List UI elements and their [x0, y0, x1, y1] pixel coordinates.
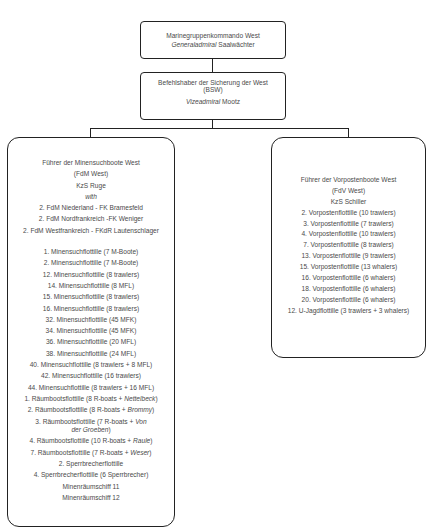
- unit-item: 2. Sperrbrecherflottille: [8, 460, 174, 471]
- top-box-rank: Generaladmiral: [171, 41, 216, 48]
- marinegruppenkommando-box: Marinegruppenkommando West Generaladmira…: [140, 21, 286, 59]
- unit-item: 1. Räumbootsflottille (8 R-boats + Nette…: [8, 395, 174, 406]
- connector-to-right-box: [348, 128, 349, 137]
- unit-item: Minenräumschiff 11: [8, 483, 174, 494]
- unit-text: 7. Räumbootsflottille (7 R-boats +: [30, 449, 130, 456]
- unit-item: 15. Vorpostenflottille (13 whalers): [272, 263, 425, 274]
- unit-item: 2. Minensuchflottille (7 M-Boote): [8, 259, 174, 270]
- top-box-commander: Generaladmiral Saalwächter: [141, 41, 285, 50]
- unit-item: 40. Minensuchflottille (8 trawlers + 8 M…: [8, 361, 174, 372]
- unit-text: 1. Räumbootsflottille (8 R-boats +: [24, 395, 124, 402]
- unit-item: 13. Vorpostenflottille (9 trawlers): [272, 252, 425, 263]
- unit-item: 2. Vorpostenflottille (10 trawlers): [272, 209, 425, 220]
- unit-item: 4. Räumbootsflottille (10 R-boats + Raul…: [8, 437, 174, 448]
- unit-text: ): [150, 437, 152, 444]
- fdv-west-box: Führer der Vorpostenboote West (FdV West…: [271, 137, 426, 358]
- unit-item: 7. Räumbootsflottille (7 R-boats + Weser…: [8, 449, 174, 460]
- unit-item: 18. Vorpostenflottille (6 whalers): [272, 285, 425, 296]
- mid-box-commander: Vizeadmiral Mootz: [141, 98, 285, 107]
- left-box-with: with: [8, 193, 174, 204]
- unit-item: Minenräumschiff 12: [8, 494, 174, 505]
- vessel-name: Weser: [130, 449, 149, 456]
- unit-item: 2. Räumbootsflottille (8 R-boats + Bromm…: [8, 406, 174, 417]
- unit-text: ): [155, 395, 157, 402]
- right-box-abbr: (FdV West): [272, 187, 425, 198]
- unit-item: 12. U-Jagdflottille (3 trawlers + 3 whal…: [272, 307, 425, 318]
- connector-top-to-middle: [212, 59, 213, 72]
- left-box-abbr: (FdM West): [8, 170, 174, 181]
- left-box-commander: KzS Ruge: [8, 182, 174, 193]
- left-box-title: Führer der Minensuchboote West: [8, 159, 174, 170]
- unit-item: 4. Sperrbrecherflottille (6 Sperrbrecher…: [8, 471, 174, 482]
- top-box-name: Saalwächter: [218, 41, 254, 48]
- bsw-box: Befehlshaber der Sicherung der West (BSW…: [140, 72, 286, 120]
- unit-text: ): [149, 449, 151, 456]
- subcommand: 2. FdM Westfrankreich - FKdR Lautenschla…: [8, 227, 174, 238]
- unit-item: 4. Vorpostenflottille (10 trawlers): [272, 230, 425, 241]
- unit-item: 20. Vorpostenflottille (6 whalers): [272, 296, 425, 307]
- right-box-title: Führer der Vorpostenboote West: [272, 176, 425, 187]
- unit-item: 16. Vorpostenflottille (6 whalers): [272, 274, 425, 285]
- subcommand: 2. FdM Niederland - FK Bramesfeld: [8, 204, 174, 215]
- mid-box-name: Mootz: [222, 98, 240, 105]
- unit-item: 3. Räumbootsflottille (7 R-boats + Von d…: [8, 418, 174, 436]
- unit-text: 4. Räumbootsflottille (10 R-boats +: [30, 437, 134, 444]
- unit-item: 7. Vorpostenflottille (8 trawlers): [272, 241, 425, 252]
- unit-text: ): [152, 406, 154, 413]
- unit-item: 32. Minensuchflottille (45 MFK): [8, 316, 174, 327]
- unit-item: 42. Minensuchflottille (16 trawlers): [8, 372, 174, 383]
- connector-horizontal: [90, 128, 349, 129]
- connector-to-left-box: [90, 128, 91, 137]
- top-box-title: Marinegruppenkommando West: [141, 32, 285, 41]
- with-label: with: [85, 193, 97, 200]
- right-unit-list: 2. Vorpostenflottille (10 trawlers)3. Vo…: [272, 209, 425, 318]
- unit-item: 15. Minensuchflottille (8 trawlers): [8, 293, 174, 304]
- unit-item: 14. Minensuchflottille (8 MFL): [8, 282, 174, 293]
- unit-item: 38. Minensuchflottille (24 MFL): [8, 350, 174, 361]
- unit-text: 3. Räumbootsflottille (7 R-boats +: [35, 418, 135, 425]
- vessel-name: Nettelbeck: [124, 395, 155, 402]
- unit-item: 12. Minensuchflottille (8 trawlers): [8, 271, 174, 282]
- subcommand: 2. FdM Nordfrankreich -FK Weniger: [8, 215, 174, 226]
- right-box-commander: KzS Schiller: [272, 198, 425, 209]
- unit-item: 34. Minensuchflottille (45 MFK): [8, 327, 174, 338]
- left-unit-list: 1. Minensuchflottille (7 M-Boote)2. Mine…: [8, 248, 174, 505]
- unit-item: 3. Vorpostenflottille (7 trawlers): [272, 220, 425, 231]
- unit-text: 2. Räumbootsflottille (8 R-boats +: [28, 406, 128, 413]
- mid-box-title: Befehlshaber der Sicherung der West: [141, 79, 285, 86]
- unit-text: ): [108, 426, 110, 433]
- unit-item: 44. Minensuchflottille (8 trawlers + 16 …: [8, 384, 174, 395]
- mid-box-abbr: (BSW): [141, 86, 285, 93]
- fdm-west-box: Führer der Minensuchboote West (FdM West…: [7, 137, 175, 527]
- mid-box-rank: Vizeadmiral: [186, 98, 220, 105]
- unit-item: 16. Minensuchflottille (8 trawlers): [8, 305, 174, 316]
- vessel-name: Brommy: [128, 406, 153, 413]
- vessel-name: Raule: [133, 437, 150, 444]
- spacer: [8, 238, 174, 248]
- unit-item: 1. Minensuchflottille (7 M-Boote): [8, 248, 174, 259]
- unit-item: 36. Minensuchflottille (20 MFL): [8, 338, 174, 349]
